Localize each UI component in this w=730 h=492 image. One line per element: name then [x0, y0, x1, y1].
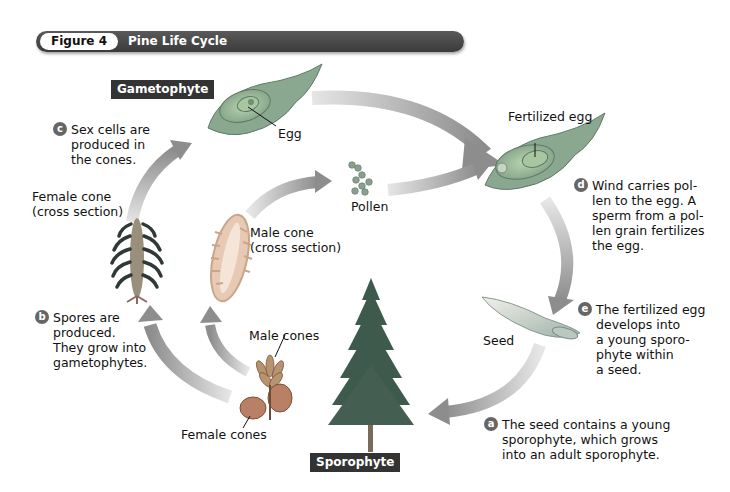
step-a: a The seed contains a young sporophyte, …: [484, 417, 724, 462]
cones-on-branch-illustration: [240, 335, 292, 428]
step-e-text: The fertilized egg develops into a young…: [596, 302, 730, 377]
egg-label: Egg: [278, 126, 302, 141]
male-cone-illustration: [204, 211, 256, 304]
step-c: c Sex cells are produced in the cones.: [53, 122, 173, 167]
sporophyte-stage-label: Sporophyte: [310, 453, 400, 472]
step-d: d Wind carries pol- len to the egg. A sp…: [574, 178, 730, 253]
step-a-text: The seed contains a young sporophyte, wh…: [502, 417, 724, 462]
step-c-text: Sex cells are produced in the cones.: [71, 122, 173, 167]
step-b-text: Spores are produced. They grow into game…: [53, 310, 175, 370]
female-cones-label: Female cones: [181, 427, 267, 442]
fertilized-egg-label: Fertilized egg: [508, 109, 592, 124]
step-a-badge: a: [484, 417, 498, 431]
step-c-badge: c: [53, 122, 67, 136]
male-cones-label: Male cones: [249, 328, 319, 343]
gametophyte-illustration: [208, 64, 322, 135]
step-d-badge: d: [574, 178, 588, 192]
arrow-pollen-to-egg: [388, 156, 494, 190]
step-e: e The fertilized egg develops into a you…: [578, 302, 730, 377]
seed-label: Seed: [483, 333, 514, 348]
gametophyte-stage-label: Gametophyte: [111, 80, 214, 99]
female-cone-illustration: [112, 218, 162, 304]
pine-tree-illustration: [328, 278, 414, 452]
pollen-illustration: [349, 162, 373, 196]
female-cone-cross-section-label: Female cone (cross section): [32, 189, 123, 219]
step-d-text: Wind carries pol- len to the egg. A sper…: [592, 178, 730, 253]
step-b: b Spores are produced. They grow into ga…: [35, 310, 175, 370]
step-b-badge: b: [35, 310, 49, 324]
step-e-badge: e: [578, 302, 592, 316]
arrow-seed-to-sporophyte: [428, 345, 540, 425]
pollen-label: Pollen: [351, 199, 388, 214]
male-cone-cross-section-label: Male cone (cross section): [250, 225, 341, 255]
arrow-fertilized-to-seed: [545, 200, 574, 315]
arrow-male-cone-to-pollen: [250, 170, 332, 215]
arrow-cones-to-male-cone: [200, 306, 248, 372]
